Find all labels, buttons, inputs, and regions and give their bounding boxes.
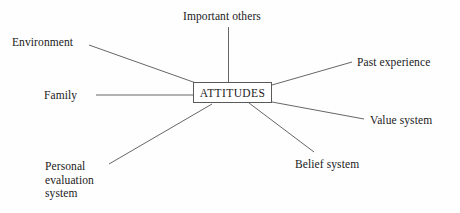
attitudes-spoke-diagram: ATTITUDES Important othersEnvironmentFam… <box>0 0 460 213</box>
connector-value-system <box>272 102 364 119</box>
node-label-belief-system: Belief system <box>295 158 359 172</box>
node-label-line: Environment <box>12 36 73 50</box>
node-label-line: Important others <box>183 10 261 24</box>
node-label-line: Belief system <box>295 158 359 172</box>
node-label-line: Family <box>44 89 77 103</box>
node-label-personal-evaluation-system: Personalevaluationsystem <box>45 160 94 201</box>
node-label-environment: Environment <box>12 36 73 50</box>
connector-personal-evaluation-system <box>109 104 212 164</box>
node-label-line: Past experience <box>357 56 430 70</box>
center-node-label: ATTITUDES <box>200 87 266 99</box>
node-label-line: system <box>45 187 94 201</box>
node-label-family: Family <box>44 89 77 103</box>
node-label-past-experience: Past experience <box>357 56 430 70</box>
connector-past-experience <box>272 62 352 85</box>
connector-belief-system <box>249 103 314 152</box>
center-node-attitudes: ATTITUDES <box>193 82 272 103</box>
node-label-line: evaluation <box>45 174 94 188</box>
node-label-value-system: Value system <box>370 114 432 128</box>
node-label-line: Value system <box>370 114 432 128</box>
node-label-important-others: Important others <box>183 10 261 24</box>
node-label-line: Personal <box>45 160 94 174</box>
connector-environment <box>89 45 196 83</box>
